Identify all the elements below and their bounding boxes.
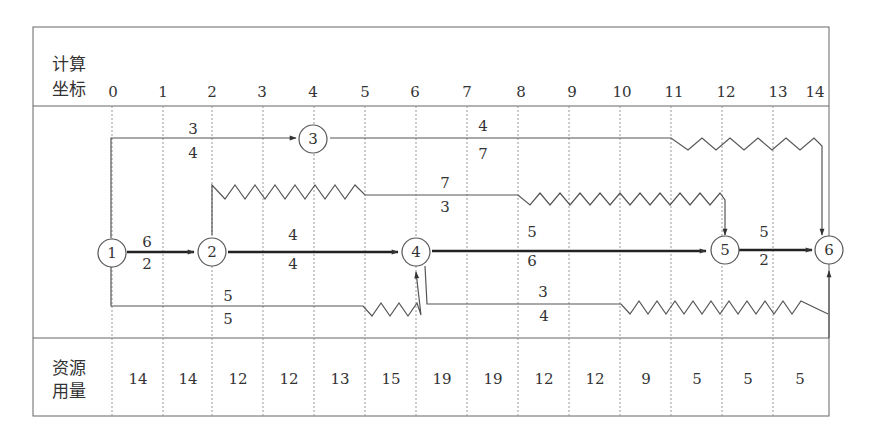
resource-value-13: 5 <box>795 370 805 388</box>
activity-4-5-duration: 6 <box>527 252 537 270</box>
activity-4-6-duration: 4 <box>539 307 549 325</box>
node-4: 4 <box>402 238 430 266</box>
node-5: 5 <box>711 236 739 264</box>
tick-11: 11 <box>664 83 683 101</box>
activity-1-2-duration: 2 <box>142 255 152 273</box>
resource-value-2: 12 <box>228 370 247 388</box>
tick-2: 2 <box>207 83 217 101</box>
activity-4-6 <box>425 266 828 314</box>
activity-1-3-duration: 4 <box>188 144 198 162</box>
tick-4: 4 <box>308 83 318 101</box>
node-3: 3 <box>299 125 327 153</box>
activity-2-5-resource: 7 <box>440 174 450 192</box>
footer-label-line2: 用量 <box>52 381 86 401</box>
activity-3-6-resource: 4 <box>478 117 488 135</box>
activity-3-6 <box>330 138 822 235</box>
activity-1-2-resource: 6 <box>142 233 152 251</box>
tick-12: 12 <box>716 83 735 101</box>
tick-1: 1 <box>158 83 168 101</box>
activity-5-6-resource: 5 <box>759 223 769 241</box>
node-1: 1 <box>98 239 126 267</box>
resource-value-3: 12 <box>279 370 298 388</box>
time-axis-ticks: 0 1 2 3 4 5 6 7 8 9 10 11 12 13 14 <box>108 83 824 101</box>
resource-value-8: 12 <box>534 370 553 388</box>
tick-6: 6 <box>410 83 420 101</box>
tick-5: 5 <box>360 83 370 101</box>
activity-2-4-duration: 4 <box>288 255 298 273</box>
node-2: 2 <box>198 238 226 266</box>
resource-value-9: 12 <box>585 370 604 388</box>
header-label-line2: 坐标 <box>52 79 86 99</box>
activity-2-5-duration: 3 <box>440 198 450 216</box>
activity-4-5-resource: 5 <box>527 223 537 241</box>
node-1-label: 1 <box>107 244 117 262</box>
tick-8: 8 <box>516 83 526 101</box>
activity-1-4-duration: 5 <box>223 310 233 328</box>
node-3-label: 3 <box>308 130 318 148</box>
header-label-line1: 计算 <box>52 54 86 74</box>
resource-value-12: 5 <box>743 370 753 388</box>
resource-value-5: 15 <box>381 370 400 388</box>
activity-2-4-resource: 4 <box>288 226 298 244</box>
resource-value-4: 13 <box>330 370 349 388</box>
table-border <box>33 27 829 416</box>
resource-value-7: 19 <box>483 370 502 388</box>
tick-7: 7 <box>462 83 472 101</box>
activity-4-6-resource: 3 <box>538 283 548 301</box>
activity-1-4 <box>111 266 421 316</box>
activity-1-4-resource: 5 <box>223 287 233 305</box>
footer-label-line1: 资源 <box>52 358 86 378</box>
activity-1-3 <box>111 138 296 238</box>
tick-13: 13 <box>768 83 787 101</box>
tick-0: 0 <box>108 83 118 101</box>
node-4-label: 4 <box>411 243 421 261</box>
resource-value-0: 14 <box>128 370 147 388</box>
resource-value-6: 19 <box>432 370 451 388</box>
tick-14: 14 <box>805 83 824 101</box>
resource-value-1: 14 <box>178 370 197 388</box>
node-5-label: 5 <box>720 241 730 259</box>
resource-value-10: 9 <box>641 370 651 388</box>
tick-3: 3 <box>257 83 267 101</box>
tick-10: 10 <box>612 83 631 101</box>
time-scaled-network-diagram: 计算 坐标 0 1 2 3 4 5 6 7 8 9 10 11 12 13 14 <box>0 0 871 440</box>
node-6: 6 <box>815 236 843 264</box>
resource-value-11: 5 <box>692 370 702 388</box>
node-6-label: 6 <box>824 241 834 259</box>
activity-5-6-duration: 2 <box>759 251 769 269</box>
activity-3-6-duration: 7 <box>478 145 488 163</box>
tick-9: 9 <box>567 83 577 101</box>
node-2-label: 2 <box>207 243 217 261</box>
activity-1-3-resource: 3 <box>188 120 198 138</box>
